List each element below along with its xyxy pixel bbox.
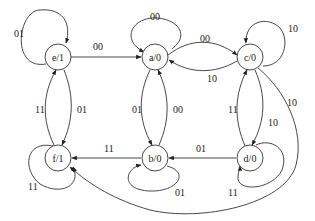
edge-e-f: 01 xyxy=(62,70,87,145)
edge-label: 10 xyxy=(288,23,298,34)
edge-label: 10 xyxy=(268,117,278,128)
edge-label: 00 xyxy=(200,33,210,44)
edge-label: 11 xyxy=(28,181,38,192)
state-label: e/1 xyxy=(52,52,64,63)
edge-label: 01 xyxy=(77,104,87,115)
edge-b-f: 11 xyxy=(72,143,141,158)
edge-d-c: 11 xyxy=(228,70,247,146)
state-diagram: 01 00 10 11 01 11 00 00 10 01 11 xyxy=(0,0,315,221)
state-label: b/0 xyxy=(149,153,162,164)
edge-label: 01 xyxy=(196,143,206,154)
edge-label: 00 xyxy=(93,41,103,52)
edge-a-c: 00 xyxy=(168,33,237,55)
edge-label: 01 xyxy=(175,187,185,198)
state-label: f/1 xyxy=(52,153,63,164)
edge-label: 01 xyxy=(14,28,24,39)
edge-label: 10 xyxy=(207,73,217,84)
edge-d-b: 01 xyxy=(169,143,236,158)
state-node-b: b/0 xyxy=(142,145,168,171)
state-node-d: d/0 xyxy=(237,145,263,171)
edge-label: 11 xyxy=(228,187,238,198)
edge-label: 00 xyxy=(173,104,183,115)
edge-label: 00 xyxy=(150,11,160,22)
state-label: d/0 xyxy=(244,153,257,164)
edge-c-a: 10 xyxy=(169,60,237,84)
state-node-a: a/0 xyxy=(142,44,168,70)
state-node-c: c/0 xyxy=(237,44,263,70)
edge-e-a: 00 xyxy=(71,41,141,57)
edge-a-b: 01 xyxy=(132,70,152,145)
edge-label: 11 xyxy=(104,143,114,154)
edge-label: 11 xyxy=(35,104,45,115)
edge-c-d: 10 xyxy=(252,70,278,145)
edge-label: 10 xyxy=(287,97,297,108)
edge-b-a: 00 xyxy=(158,70,183,145)
state-node-f: f/1 xyxy=(45,145,71,171)
state-node-e: e/1 xyxy=(45,44,71,70)
edge-f-e: 11 xyxy=(35,70,56,145)
state-label: c/0 xyxy=(244,52,256,63)
state-label: a/0 xyxy=(149,52,161,63)
edge-label: 11 xyxy=(228,104,238,115)
edge-label: 01 xyxy=(132,104,142,115)
